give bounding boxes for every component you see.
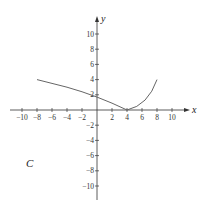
x-tick-label: −10 bbox=[16, 113, 28, 122]
y-axis-arrow-icon bbox=[95, 16, 99, 22]
y-tick-label: −10 bbox=[82, 182, 94, 191]
y-tick-label: 10 bbox=[87, 30, 95, 39]
x-axis-arrow-icon bbox=[184, 108, 190, 112]
x-tick-label: −6 bbox=[48, 113, 56, 122]
x-tick-label: 10 bbox=[168, 113, 176, 122]
x-tick-label: −8 bbox=[33, 113, 41, 122]
x-tick-label: 8 bbox=[155, 113, 159, 122]
y-tick-label: 4 bbox=[90, 75, 94, 84]
x-axis-label: x bbox=[191, 104, 197, 115]
y-tick-label: 8 bbox=[90, 45, 94, 54]
chart: x y −10−8−6−4−2246810 108642−2−4−6−8−10 … bbox=[0, 0, 205, 211]
y-tick-label: −2 bbox=[86, 121, 94, 130]
x-tick-label: 2 bbox=[110, 113, 114, 122]
y-tick-label: −8 bbox=[86, 166, 94, 175]
y-tick-label: 6 bbox=[90, 60, 94, 69]
y-tick-label: −6 bbox=[86, 151, 94, 160]
x-tick-label: −2 bbox=[78, 113, 86, 122]
x-tick-label: 6 bbox=[140, 113, 144, 122]
y-tick-label: −4 bbox=[86, 136, 94, 145]
panel-label: C bbox=[26, 157, 34, 169]
axes: x y bbox=[10, 13, 197, 200]
y-axis-label: y bbox=[100, 13, 106, 24]
x-tick-label: −4 bbox=[63, 113, 71, 122]
x-tick-label: 4 bbox=[125, 113, 129, 122]
